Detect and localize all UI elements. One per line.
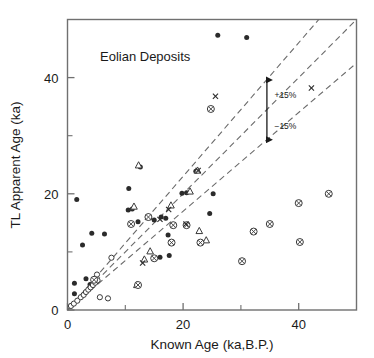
data-point-crossed-circle	[266, 221, 273, 228]
chart-figure: 0204002040 +15% −15% Eolian Deposits Kno…	[0, 0, 374, 358]
data-point-filled-circle	[136, 219, 141, 224]
data-point-filled-circle	[166, 233, 171, 238]
data-point-filled-circle	[83, 276, 88, 281]
data-point-filled-circle	[179, 191, 184, 196]
data-point-crossed-circle	[91, 276, 98, 283]
data-point-crossed-circle	[145, 214, 152, 221]
plus-15-label: +15%	[274, 90, 296, 100]
data-point-filled-circle	[126, 186, 131, 191]
data-point-crossed-circle	[296, 239, 303, 246]
x-tick-label: 0	[64, 317, 71, 332]
data-point-crossed-circle	[197, 239, 204, 246]
y-axis-title: TL Apparent Age (ka)	[8, 101, 23, 228]
minus-15-label: −15%	[274, 121, 296, 131]
data-point-filled-circle	[89, 231, 94, 236]
x-tick-label: 40	[291, 317, 305, 332]
data-point-crossed-circle	[295, 200, 302, 207]
data-point-filled-circle	[72, 291, 77, 296]
data-point-filled-circle	[167, 253, 172, 258]
data-point-open-circle	[109, 255, 114, 260]
data-point-crossed-circle	[250, 228, 257, 235]
data-point-crossed-circle	[325, 190, 332, 197]
data-point-filled-circle	[102, 231, 107, 236]
panel-title: Eolian Deposits	[100, 49, 191, 64]
data-point-crossed-circle	[170, 222, 177, 229]
data-point-filled-circle	[72, 281, 77, 286]
data-point-filled-circle	[163, 216, 168, 221]
data-point-crossed-circle	[207, 105, 214, 112]
y-tick-label: 20	[44, 187, 58, 202]
data-point-filled-circle	[211, 191, 216, 196]
data-point-crossed-circle	[135, 282, 142, 289]
y-tick-label: 40	[44, 71, 58, 86]
x-axis-title: Known Age (ka,B.P.)	[151, 337, 274, 352]
scatter-plot-svg: 0204002040 +15% −15% Eolian Deposits Kno…	[0, 0, 374, 358]
data-point-crossed-circle	[151, 255, 158, 262]
data-point-filled-circle	[244, 35, 249, 40]
data-point-crossed-circle	[128, 221, 135, 228]
data-point-open-circle	[97, 295, 102, 300]
x-tick-label: 20	[176, 317, 190, 332]
data-point-crossed-circle	[239, 258, 246, 265]
data-point-filled-circle	[207, 211, 212, 216]
data-point-filled-circle	[80, 242, 85, 247]
data-point-crossed-circle	[168, 239, 175, 246]
y-tick-label: 0	[51, 303, 58, 318]
data-point-filled-circle	[215, 33, 220, 38]
data-point-filled-circle	[74, 197, 79, 202]
data-point-open-circle	[105, 296, 110, 301]
data-point-filled-circle	[157, 255, 162, 260]
